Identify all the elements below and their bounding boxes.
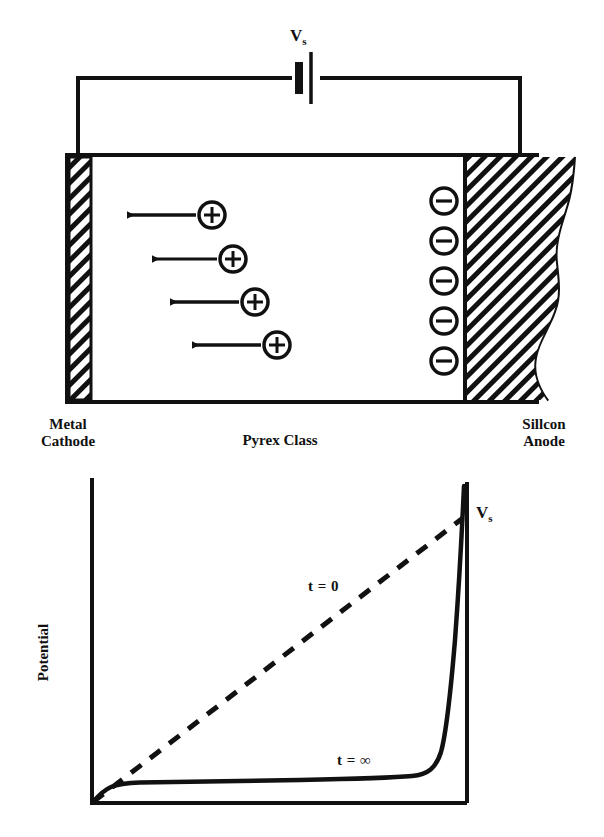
negative-charge-carrier	[431, 188, 457, 214]
silicon-anode-block	[465, 157, 604, 400]
curve-t-infinity	[93, 486, 464, 802]
negative-charge-carrier	[431, 308, 457, 334]
negative-charge-carrier	[431, 268, 457, 294]
wire-left	[78, 78, 292, 155]
circuit-wiring	[78, 52, 520, 155]
metal-cathode-label: MetalCathode	[20, 416, 116, 451]
pyrex-glass-label: Pyrex Class	[200, 432, 360, 449]
source-voltage-label: Vs	[290, 26, 307, 47]
figure-root: Vs MetalCathode Pyrex Class SillconAnode…	[0, 0, 604, 837]
metal-cathode-block	[69, 157, 91, 400]
silicon-anode-label: SillconAnode	[492, 416, 596, 451]
wire-right	[320, 78, 520, 155]
cell-assembly	[67, 155, 604, 402]
battery-symbol	[299, 52, 311, 104]
curve-t-zero	[93, 518, 463, 802]
curve-label-t-infinity: t = ∞	[337, 752, 371, 769]
negative-charge-carrier	[431, 348, 457, 374]
curve-label-t-zero: t = 0	[308, 578, 339, 595]
y-axis-label: Potential	[35, 594, 52, 712]
negative-charge-carrier	[431, 228, 457, 254]
plot-axes	[92, 478, 467, 803]
potential-plot	[92, 478, 467, 803]
plot-supply-voltage-label: Vs	[476, 503, 493, 524]
